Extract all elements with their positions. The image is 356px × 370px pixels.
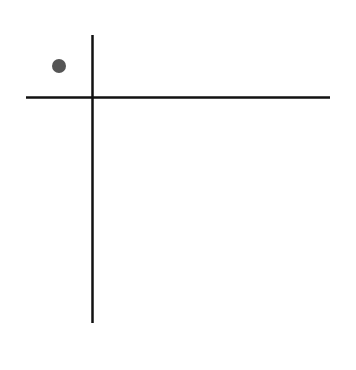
data-point-dot (52, 59, 66, 73)
background (0, 0, 356, 370)
coordinate-diagram (0, 0, 356, 370)
